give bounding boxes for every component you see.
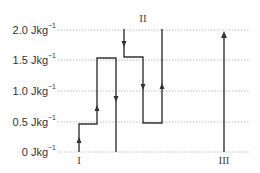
energy-path-diagram: 2.0 Jkg−1 1.5 Jkg−1 1.0 Jkg−1 0.5 Jkg−1 … xyxy=(0,0,260,173)
arrow-up-icon xyxy=(221,31,227,38)
y-tick-label: 2.0 Jkg−1 xyxy=(0,23,56,36)
arrow-down-icon xyxy=(122,41,127,47)
arrow-up-icon xyxy=(95,105,100,111)
arrow-up-icon xyxy=(160,83,165,89)
path-label-II: II xyxy=(139,12,146,24)
y-tick-label: 1.5 Jkg−1 xyxy=(0,53,56,66)
path-label-III: III xyxy=(219,154,230,166)
path-I xyxy=(79,58,116,152)
path-label-I: I xyxy=(77,154,81,166)
arrow-down-icon xyxy=(141,84,146,90)
arrow-up-icon xyxy=(77,137,82,143)
y-tick-label: 0 Jkg−1 xyxy=(0,145,56,158)
y-tick-label: 0.5 Jkg−1 xyxy=(0,115,56,128)
y-tick-label: 1.0 Jkg−1 xyxy=(0,84,56,97)
arrow-down-icon xyxy=(114,96,119,102)
path-II xyxy=(124,29,162,123)
gridlines xyxy=(58,30,250,152)
